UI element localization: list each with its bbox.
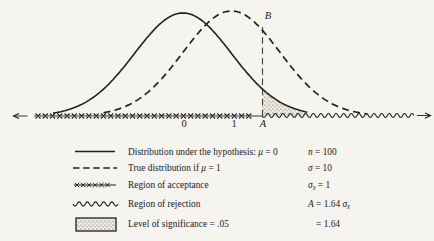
point-label-B: B: [262, 11, 274, 21]
param-sigma-xbar: σx̄ = 1: [308, 180, 330, 193]
param-A-value: = 1.64: [316, 219, 340, 230]
distribution-figure: [0, 0, 434, 241]
tick-label-1: 1: [228, 119, 240, 129]
legend-label-acceptance: Region of acceptance: [128, 180, 209, 191]
param-A: A = 1.64 σx̄: [308, 199, 350, 212]
param-sigma: σ = 10: [308, 163, 332, 174]
critical-value-label-A: A: [257, 119, 269, 129]
legend-label-true-distribution: True distribution if μ = 1: [128, 163, 221, 174]
significance-area: [263, 89, 308, 116]
legend-label-hypothesis: Distribution under the hypothesis: μ = 0: [128, 147, 278, 158]
legend-wavy-sample: [73, 202, 118, 206]
figure-canvas: 0 1 A B Distribution under the hypothesi…: [0, 0, 434, 241]
legend-label-significance: Level of significance = .05: [128, 219, 229, 230]
tick-label-0: 0: [178, 119, 190, 129]
legend-xmarks-sample: [74, 183, 116, 187]
param-n: n = 100: [308, 147, 337, 158]
true-distribution-curve-dashed: [104, 11, 368, 114]
legend-stipple-box-sample: [76, 218, 116, 231]
legend-label-rejection: Region of rejection: [128, 199, 200, 210]
